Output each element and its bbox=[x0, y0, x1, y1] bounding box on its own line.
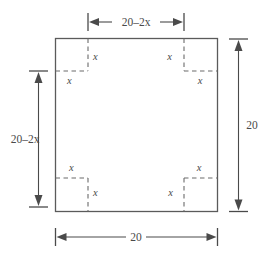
label-x-top-left-vertical: x bbox=[92, 51, 98, 62]
dimension-bottom-arrowhead-right bbox=[207, 233, 217, 241]
dimension-left-label: 20–2x bbox=[11, 133, 40, 145]
label-x-bottom-left-horizontal: x bbox=[68, 162, 74, 173]
dimension-left-arrowhead-top bbox=[35, 72, 43, 83]
geometry-figure: x x x x x x x x 20–2x bbox=[0, 0, 262, 269]
dimension-top-arrowhead-right bbox=[173, 18, 183, 26]
dimension-left-arrowhead-bottom bbox=[35, 195, 43, 206]
dimension-top: 20–2x bbox=[88, 13, 184, 31]
label-x-top-left-horizontal: x bbox=[66, 75, 72, 86]
label-x-bottom-right-horizontal: x bbox=[196, 162, 202, 173]
dimension-left: 20–2x bbox=[11, 71, 48, 207]
dimension-right: 20 bbox=[229, 39, 258, 212]
dimension-bottom-label: 20 bbox=[130, 231, 142, 243]
corner-cutout-bottom-right bbox=[184, 178, 218, 212]
label-x-top-right-vertical: x bbox=[166, 51, 172, 62]
main-square-outline bbox=[56, 39, 218, 212]
dimension-right-arrowhead-bottom bbox=[235, 200, 243, 211]
dimension-bottom-arrowhead-left bbox=[57, 233, 67, 241]
label-x-bottom-right-vertical: x bbox=[167, 187, 173, 198]
label-x-top-right-horizontal: x bbox=[197, 75, 203, 86]
dimension-top-label: 20–2x bbox=[122, 16, 151, 28]
dimension-bottom: 20 bbox=[56, 228, 218, 246]
label-x-bottom-left-vertical: x bbox=[92, 187, 98, 198]
dimension-right-arrowhead-top bbox=[235, 40, 243, 51]
corner-cutout-bottom-left bbox=[56, 178, 89, 212]
corner-cutout-top-left bbox=[56, 39, 89, 72]
dimension-right-label: 20 bbox=[246, 119, 258, 131]
dimension-top-arrowhead-left bbox=[89, 18, 99, 26]
figure-canvas: x x x x x x x x 20–2x bbox=[0, 0, 262, 269]
corner-cutout-top-right bbox=[184, 39, 218, 72]
